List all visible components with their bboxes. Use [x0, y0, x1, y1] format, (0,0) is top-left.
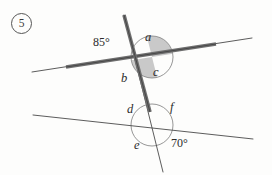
angle-label-e: e — [134, 139, 140, 152]
angle-label-a: a — [145, 31, 151, 44]
angle-measure-70: 70° — [171, 137, 188, 149]
angle-label-d: d — [127, 103, 133, 116]
geometry-figure: 5 — [0, 0, 272, 175]
angle-label-c: c — [153, 66, 159, 79]
angle-label-b: b — [121, 72, 127, 85]
angle-label-f: f — [170, 101, 173, 114]
angle-measure-85: 85° — [93, 36, 110, 48]
lower-line — [33, 115, 253, 139]
